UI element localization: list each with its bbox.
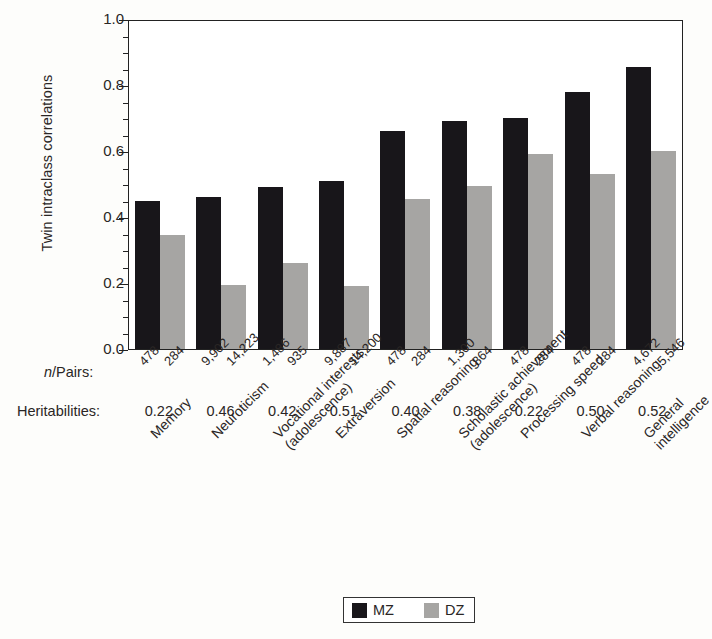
bar-group xyxy=(559,21,620,349)
bar-mz[interactable] xyxy=(565,92,590,349)
chart-legend: MZDZ xyxy=(343,597,475,623)
legend-item-mz[interactable]: MZ xyxy=(352,602,394,618)
y-major-tick xyxy=(119,20,128,21)
y-tick-label: 1.0 xyxy=(84,10,124,27)
bar-dz[interactable] xyxy=(528,154,553,349)
bar-group xyxy=(375,21,436,349)
bar-mz[interactable] xyxy=(258,187,283,349)
bar-group xyxy=(621,21,682,349)
npairs-group: 478284 xyxy=(128,352,190,394)
bar-mz[interactable] xyxy=(135,201,160,350)
y-tick-label: 0.8 xyxy=(84,76,124,93)
bar-mz[interactable] xyxy=(442,121,467,349)
plot-area xyxy=(128,20,683,350)
bar-group xyxy=(436,21,497,349)
bar-group xyxy=(498,21,559,349)
x-axis-category-labels: MemoryNeuroticismVocational interests(ad… xyxy=(128,430,683,570)
bar-groups xyxy=(129,21,682,349)
legend-label: MZ xyxy=(373,602,394,618)
bar-dz[interactable] xyxy=(651,151,676,349)
y-major-tick xyxy=(119,218,128,219)
bar-dz[interactable] xyxy=(590,174,615,349)
legend-swatch-dz xyxy=(424,603,439,618)
y-major-tick xyxy=(119,350,128,351)
bar-dz[interactable] xyxy=(405,199,430,349)
bar-mz[interactable] xyxy=(380,131,405,349)
legend-item-dz[interactable]: DZ xyxy=(424,602,464,618)
bar-group xyxy=(313,21,374,349)
bar-group xyxy=(252,21,313,349)
y-major-tick xyxy=(119,86,128,87)
y-tick-label: 0.6 xyxy=(84,142,124,159)
heritabilities-row-label: Heritabilities: xyxy=(17,403,100,419)
y-tick-label: 0.0 xyxy=(84,340,124,357)
bar-group xyxy=(190,21,251,349)
bar-mz[interactable] xyxy=(503,118,528,349)
y-major-tick xyxy=(119,152,128,153)
bar-dz[interactable] xyxy=(160,235,185,349)
legend-label: DZ xyxy=(445,602,464,618)
npairs-group: 9,90214,223 xyxy=(190,352,252,394)
bar-mz[interactable] xyxy=(196,197,221,349)
y-tick-label: 0.4 xyxy=(84,208,124,225)
legend-swatch-mz xyxy=(352,603,367,618)
npairs-row-label: n/Pairs: xyxy=(44,364,93,380)
bar-mz[interactable] xyxy=(626,67,651,349)
y-axis-title: Twin intraclass correlations xyxy=(39,33,55,293)
bar-mz[interactable] xyxy=(319,181,344,349)
bar-dz[interactable] xyxy=(283,263,308,349)
bar-group xyxy=(129,21,190,349)
y-tick-label: 0.2 xyxy=(84,274,124,291)
bar-dz[interactable] xyxy=(467,186,492,349)
y-major-tick xyxy=(119,284,128,285)
